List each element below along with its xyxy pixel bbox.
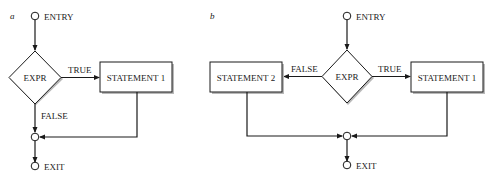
junction-node [343, 132, 351, 140]
panel-a: a ENTRY EXPR TRUE STATEMENT 1 FALSE EXIT [9, 11, 174, 172]
statement1-return-arrow [352, 92, 447, 136]
entry-node [31, 12, 39, 20]
panel-b-label: b [210, 11, 215, 21]
exit-label: EXIT [356, 161, 377, 171]
exit-node [343, 161, 351, 169]
statement1-label: STATEMENT 1 [418, 73, 476, 83]
flowchart-figure: a ENTRY EXPR TRUE STATEMENT 1 FALSE EXIT… [0, 0, 489, 179]
statement1-label: STATEMENT 1 [107, 73, 165, 83]
exit-label: EXIT [44, 162, 65, 172]
true-label: TRUE [378, 64, 402, 74]
entry-label: ENTRY [44, 12, 74, 22]
junction-node [31, 133, 39, 141]
statement2-return-arrow [247, 92, 342, 136]
entry-node [343, 12, 351, 20]
statement2-label: STATEMENT 2 [217, 73, 275, 83]
true-label: TRUE [68, 65, 92, 75]
false-label: FALSE [291, 64, 318, 74]
false-label: FALSE [41, 111, 68, 121]
panel-a-label: a [10, 11, 15, 21]
entry-label: ENTRY [356, 12, 386, 22]
decision-label: EXPR [335, 72, 358, 82]
exit-node [31, 162, 39, 170]
panel-b: b ENTRY EXPR TRUE FALSE STATEMENT 2 STAT… [210, 11, 485, 171]
decision-label: EXPR [23, 73, 46, 83]
